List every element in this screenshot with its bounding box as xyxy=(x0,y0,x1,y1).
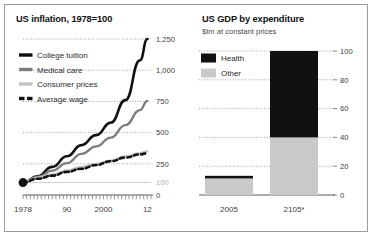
legend-item-other[interactable]: Other xyxy=(201,69,241,79)
y-axis-tick-label: 1,000 xyxy=(156,66,175,75)
legend-item-college-tuition[interactable]: College tuition xyxy=(19,51,88,60)
x-axis-tick-label: 90 xyxy=(62,205,71,214)
legend-item-health[interactable]: Health xyxy=(201,54,244,64)
y-axis-tick-label: 40 xyxy=(340,133,348,142)
panel-us-inflation: US inflation, 1978=100 01002505007501,00… xyxy=(5,5,191,231)
bar-segment-health xyxy=(205,176,253,179)
bar-segment-other xyxy=(270,137,318,195)
bar-segment-other xyxy=(205,178,253,195)
chart-figure: US inflation, 1978=100 01002505007501,00… xyxy=(4,4,368,232)
y-axis-tick-label: 1,250 xyxy=(156,35,175,44)
origin-marker xyxy=(19,178,28,187)
line-series-medical-care xyxy=(23,101,147,183)
legend-label: Medical care xyxy=(37,66,83,75)
x-axis-tick-label: 12 xyxy=(143,205,152,214)
y-axis-tick-label: 500 xyxy=(156,128,169,137)
legend-label: Consumer prices xyxy=(37,80,97,89)
y-axis-tick-label: 250 xyxy=(156,160,169,169)
legend-item-consumer-prices[interactable]: Consumer prices xyxy=(19,80,97,89)
legend-label: Other xyxy=(221,69,241,78)
y-axis-tick-label: 20 xyxy=(340,162,348,171)
legend-label: Health xyxy=(221,54,244,63)
line-series-average-wage xyxy=(23,153,147,182)
chart-svg-us-gdp: 02040608010020052105*HealthOther xyxy=(191,5,368,232)
y-axis-tick-label: 0 xyxy=(340,191,344,200)
x-axis-category-label: 2005 xyxy=(220,205,238,214)
y-axis-tick-label: 100 xyxy=(156,178,169,187)
bar-segment-health xyxy=(270,51,318,137)
legend-label: Average wage xyxy=(37,95,89,104)
panel-us-gdp: US GDP by expenditure $tm at constant pr… xyxy=(191,5,368,231)
line-series-college-tuition xyxy=(23,39,147,183)
legend-item-medical-care[interactable]: Medical care xyxy=(19,66,83,75)
chart-svg-us-inflation: 01002505007501,0001,250197890200012Colle… xyxy=(5,5,191,232)
y-axis-tick-label: 80 xyxy=(340,76,348,85)
y-axis-tick-label: 100 xyxy=(340,47,353,56)
y-axis-tick-label: 60 xyxy=(340,104,348,113)
y-axis-tick-label: 0 xyxy=(156,191,160,200)
legend-swatch xyxy=(201,69,216,78)
x-axis-tick-label: 1978 xyxy=(14,205,32,214)
y-axis-tick-label: 750 xyxy=(156,97,169,106)
legend-label: College tuition xyxy=(37,51,88,60)
legend-swatch xyxy=(201,54,216,63)
x-axis-category-label: 2105* xyxy=(284,205,305,214)
legend-item-average-wage[interactable]: Average wage xyxy=(19,95,89,104)
x-axis-tick-label: 2000 xyxy=(95,205,113,214)
